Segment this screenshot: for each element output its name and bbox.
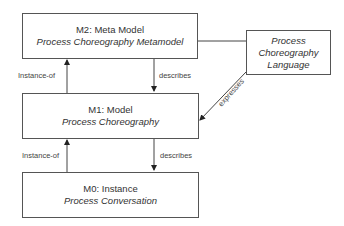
m2-meta-model-box: M2: Meta Model Process Choreography Meta… [22,13,198,59]
m0-subtitle: Process Conversation [64,195,157,207]
language-line1: Process [271,35,305,47]
describes-label-lower: describes [160,151,192,160]
language-line2: Choreography [258,47,318,59]
m1-title: M1: Model [88,104,132,116]
m0-instance-box: M0: Instance Process Conversation [22,172,199,218]
m2-subtitle: Process Choreography Metamodel [37,36,184,48]
describes-label-upper: describes [159,71,191,80]
m1-model-box: M1: Model Process Choreography [22,93,199,139]
m0-title: M0: Instance [83,183,137,195]
instance-of-label-lower: Instance-of [22,151,59,160]
m2-title: M2: Meta Model [76,24,144,36]
language-box: Process Choreography Language [246,30,331,75]
instance-of-label-upper: Instance-of [18,71,55,80]
language-line3: Language [267,59,309,71]
m1-subtitle: Process Choreography [62,116,159,128]
